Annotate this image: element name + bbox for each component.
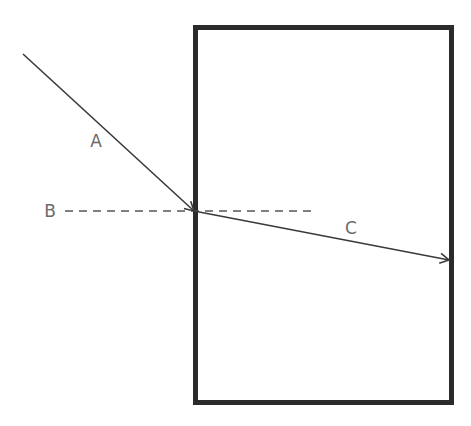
label-a: A: [90, 131, 102, 151]
glass-block: [196, 28, 452, 403]
label-b: B: [44, 201, 56, 221]
refraction-diagram: A B C: [0, 0, 471, 426]
refracted-ray-c: [194, 211, 449, 260]
label-c: C: [345, 218, 357, 238]
incident-ray-a: [23, 54, 194, 211]
